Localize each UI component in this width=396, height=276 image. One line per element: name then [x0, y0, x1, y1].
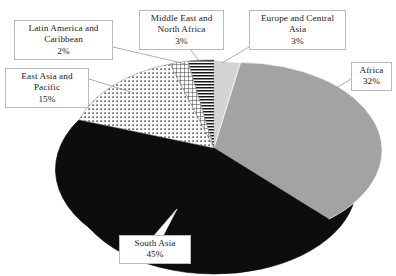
leader-line-europe	[222, 47, 249, 63]
slice-label-percent: 3%	[253, 36, 342, 47]
slice-label-percent: 3%	[143, 36, 220, 47]
slice-label-europe-and-central-asia[interactable]: Europe and Central Asia 3%	[249, 10, 346, 50]
slice-label-name-line1: Latin America and	[18, 23, 109, 34]
leader-line-middle-east	[190, 49, 200, 62]
slice-label-name-line1: East Asia and	[9, 71, 85, 82]
slice-label-percent: 2%	[18, 46, 109, 57]
slice-label-name-line1: Middle East and	[143, 13, 220, 24]
leader-line-africa	[336, 79, 351, 88]
slice-label-name-line2: Pacific	[9, 82, 85, 93]
slice-label-percent: 45%	[123, 249, 187, 260]
slice-label-name-line2: Asia	[253, 24, 342, 35]
slice-label-percent: 32%	[355, 76, 388, 87]
slice-label-name-line1: Africa	[355, 65, 388, 76]
slice-label-east-asia-and-pacific[interactable]: East Asia and Pacific 15%	[5, 68, 89, 108]
slice-label-africa[interactable]: Africa 32%	[351, 62, 392, 91]
slice-label-latin-america-and-caribbean[interactable]: Latin America and Caribbean 2%	[14, 20, 113, 60]
slice-label-percent: 15%	[9, 94, 85, 105]
slice-label-south-asia[interactable]: South Asia 45%	[119, 235, 191, 264]
slice-label-name-line2: Caribbean	[18, 34, 109, 45]
slice-label-name-line1: Europe and Central	[253, 13, 342, 24]
pie-chart-figure: Latin America and Caribbean 2% East Asia…	[0, 0, 396, 276]
slice-label-name-line1: South Asia	[123, 238, 187, 249]
slice-label-middle-east-and-north-africa[interactable]: Middle East and North Africa 3%	[139, 10, 224, 50]
slice-label-name-line2: North Africa	[143, 24, 220, 35]
